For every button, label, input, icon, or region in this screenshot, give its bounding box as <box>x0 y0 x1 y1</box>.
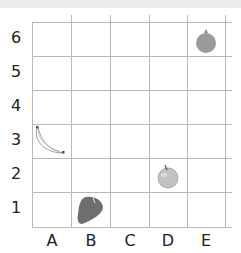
column-label-c: C <box>111 233 149 249</box>
row-label-6: 6 <box>8 30 24 46</box>
coordinate-grid <box>0 0 241 253</box>
apple-icon <box>158 165 178 188</box>
row-label-2: 2 <box>8 166 24 182</box>
row-label-3: 3 <box>8 132 24 148</box>
row-label-5: 5 <box>8 64 24 80</box>
row-label-4: 4 <box>8 98 24 114</box>
strawberry-icon <box>78 197 103 224</box>
column-label-d: D <box>149 233 187 249</box>
column-label-b: B <box>72 233 110 249</box>
column-label-e: E <box>187 233 225 249</box>
pomegranate-icon <box>196 29 216 53</box>
banana-icon <box>36 126 65 154</box>
row-label-1: 1 <box>8 200 24 216</box>
column-label-a: A <box>33 233 71 249</box>
